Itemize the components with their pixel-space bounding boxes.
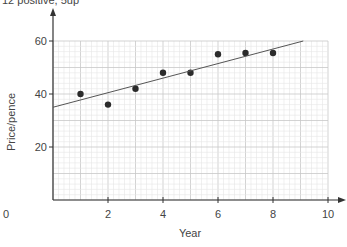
y-tick-label: 40	[35, 88, 47, 100]
x-tick-label: 2	[105, 208, 111, 220]
chart-series	[53, 41, 303, 108]
data-point	[77, 91, 83, 97]
x-tick-label: 0	[3, 208, 9, 220]
best-fit-line	[53, 41, 303, 107]
y-tick-label: 60	[35, 35, 47, 47]
y-tick-label: 20	[35, 141, 47, 153]
data-point	[270, 50, 276, 56]
chart-grid	[53, 41, 328, 200]
data-point	[242, 50, 248, 56]
y-axis-label: Price/pence	[5, 93, 17, 151]
x-axis-arrow-icon	[338, 197, 346, 203]
x-tick-label: 8	[270, 208, 276, 220]
x-tick-label: 4	[160, 208, 166, 220]
y-axis-arrow-icon	[50, 8, 56, 16]
data-point	[215, 51, 221, 57]
x-tick-label: 10	[322, 208, 334, 220]
x-axis-label: Year	[179, 227, 202, 239]
x-tick-label: 6	[215, 208, 221, 220]
data-point	[160, 70, 166, 76]
scatter-chart: 0246810204060 Year Price/pence	[0, 0, 347, 247]
data-point	[105, 101, 111, 107]
